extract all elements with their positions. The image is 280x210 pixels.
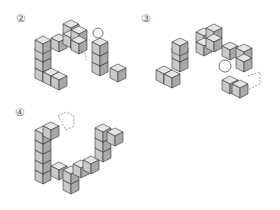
dashed-cube — [58, 112, 74, 130]
circle-marker — [93, 28, 103, 38]
circle-marker — [219, 60, 231, 72]
cube-figures — [0, 0, 280, 210]
figure-4 — [35, 112, 123, 194]
figure-2 — [35, 20, 126, 90]
figure-3 — [156, 24, 260, 98]
